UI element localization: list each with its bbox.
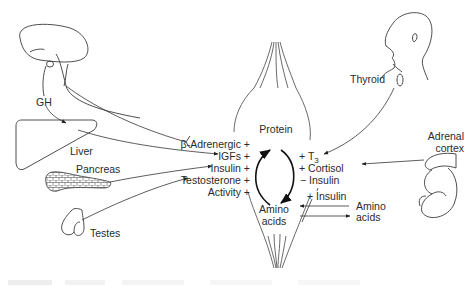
edge-thyroid-t3 bbox=[324, 88, 394, 154]
figure-caption-cutoff bbox=[8, 280, 448, 285]
adrenal-label-2: cortex bbox=[420, 142, 464, 154]
factor-igfs: IGFs + bbox=[150, 150, 250, 162]
thyroid-label: Thyroid bbox=[350, 73, 385, 85]
liver-label: Liver bbox=[70, 145, 93, 157]
adrenal-label-1: Adrenal bbox=[420, 130, 464, 142]
edge-pituitary-adrenergic bbox=[66, 86, 186, 142]
factor-testosterone: Testosterone + bbox=[150, 174, 250, 186]
gh-label: GH bbox=[36, 96, 52, 108]
external-amino-label-2: acids bbox=[356, 211, 381, 223]
head-thyroid-icon bbox=[380, 13, 432, 86]
testes-icon bbox=[62, 209, 84, 236]
breakdown-arrow bbox=[281, 150, 294, 203]
factor-activity: Activity + bbox=[150, 186, 250, 198]
amino-acids-label-1: Amino bbox=[254, 203, 294, 215]
factor-cortisol: + Cortisol bbox=[299, 162, 344, 174]
amino-acids-label-2: acids bbox=[254, 215, 294, 227]
factor-insulin-negative: − Insulin bbox=[300, 174, 339, 186]
factor-beta-adrenergic: β-Adrenergic + bbox=[150, 138, 250, 150]
synthesis-arrow bbox=[256, 150, 270, 205]
kidney-adrenal-icon bbox=[419, 153, 457, 217]
diagram-canvas: GH Liver Pancreas Testes Thyroid Adrenal… bbox=[0, 0, 471, 287]
insulin-transport-line bbox=[302, 199, 312, 222]
factor-insulin: Insulin + bbox=[150, 162, 250, 174]
protein-label: Protein bbox=[252, 123, 300, 135]
transport-insulin: + Insulin bbox=[307, 190, 346, 202]
pancreas-label: Pancreas bbox=[76, 163, 120, 175]
edge-adrenal-cortisol bbox=[362, 160, 424, 164]
testes-label: Testes bbox=[90, 227, 120, 239]
